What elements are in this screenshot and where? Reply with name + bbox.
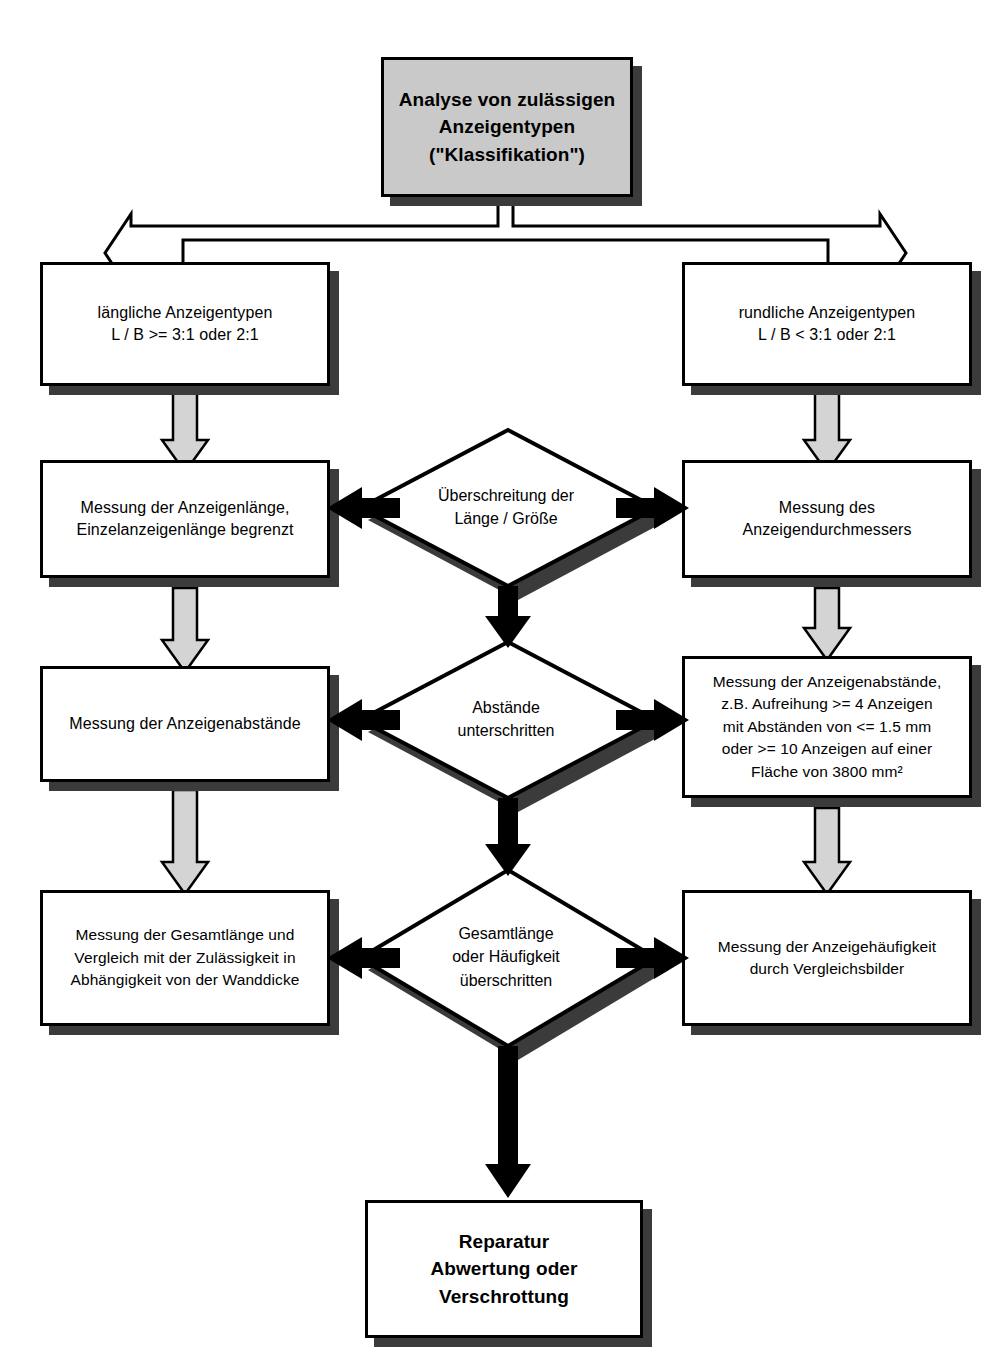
arrow-decision1-to-decision2 bbox=[485, 586, 531, 648]
arrow-decision3-to-terminal bbox=[485, 1046, 531, 1198]
arrow-layer-foreground bbox=[0, 0, 1001, 1364]
arrow-decision2-left bbox=[327, 699, 400, 741]
arrow-decision1-left bbox=[327, 487, 400, 529]
arrow-decision1-right bbox=[616, 487, 689, 529]
arrow-decision3-left bbox=[327, 937, 400, 979]
arrow-decision2-to-decision3 bbox=[485, 798, 531, 876]
arrow-decision3-right bbox=[616, 937, 689, 979]
flowchart-canvas: Analyse von zulässigen Anzeigentypen ("K… bbox=[0, 0, 1001, 1364]
arrow-decision2-right bbox=[616, 699, 689, 741]
